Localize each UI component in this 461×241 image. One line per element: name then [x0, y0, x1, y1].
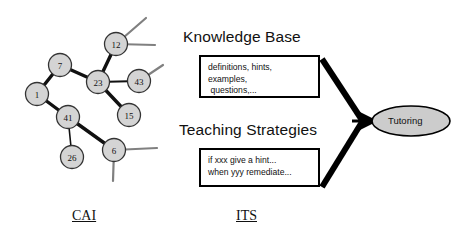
graph-node-1[interactable]: 1 — [26, 83, 49, 106]
graph-node-label: 7 — [58, 61, 63, 71]
graph-node-label: 23 — [94, 78, 104, 88]
graph-node-label: 1 — [35, 90, 40, 100]
knowledge-base-heading: Knowledge Base — [183, 28, 301, 46]
knowledge-base-box-text: definitions, hints, examples, questions,… — [208, 62, 272, 97]
teaching-strategies-box: if xxx give a hint... when yyy remediate… — [199, 148, 320, 187]
graph-node-label: 15 — [125, 111, 135, 121]
knowledge-base-box: definitions, hints, examples, questions,… — [199, 55, 320, 98]
graph-node-15[interactable]: 15 — [118, 104, 141, 127]
graph-node-label: 6 — [112, 146, 117, 156]
graph-node-label: 41 — [64, 113, 73, 123]
teaching-strategies-heading: Teaching Strategies — [179, 121, 317, 139]
caption-its: ITS — [236, 208, 257, 224]
graph-node-7[interactable]: 7 — [49, 54, 72, 77]
teaching-strategies-box-text: if xxx give a hint... when yyy remediate… — [208, 155, 292, 178]
graph-node-26[interactable]: 26 — [61, 146, 84, 169]
graph-node-label: 12 — [112, 40, 121, 50]
connector-arrow — [322, 59, 378, 187]
graph-node-41[interactable]: 41 — [57, 106, 80, 129]
graph-node-label: 43 — [135, 77, 145, 87]
graph-node-23[interactable]: 23 — [87, 71, 110, 94]
graph-node-12[interactable]: 12 — [105, 33, 128, 56]
diagram-canvas: 127234311541626 Knowledge Base definitio… — [0, 0, 461, 241]
graph-node-6[interactable]: 6 — [103, 139, 126, 162]
caption-cai: CAI — [72, 208, 96, 224]
graph-node-43[interactable]: 43 — [128, 70, 151, 93]
graph-node-label: 26 — [68, 153, 78, 163]
tutoring-label: Tutoring — [388, 115, 423, 126]
